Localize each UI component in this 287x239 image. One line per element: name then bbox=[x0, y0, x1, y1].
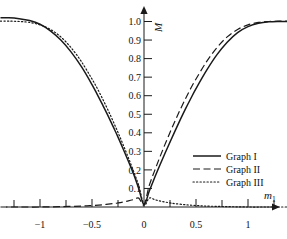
y-tick-label: 0.5 bbox=[129, 109, 142, 120]
x-axis-tick-labels: −1−0.500.51 bbox=[35, 219, 251, 230]
x-tick-label: 1 bbox=[246, 219, 251, 230]
chart-legend: Graph IGraph IIGraph III bbox=[193, 151, 263, 188]
x-tick-label: −0.5 bbox=[83, 219, 101, 230]
y-tick-label: 0.9 bbox=[129, 35, 142, 46]
legend-item-label: Graph II bbox=[226, 164, 260, 175]
y-axis-label: M bbox=[152, 22, 164, 33]
y-tick-label: 0.8 bbox=[129, 53, 142, 64]
y-axis-arrowhead bbox=[140, 6, 147, 14]
y-tick-label: 0.6 bbox=[129, 90, 142, 101]
legend-item-label: Graph III bbox=[226, 177, 263, 188]
x-tick-label: 0.5 bbox=[190, 219, 203, 230]
x-tick-label: 0 bbox=[142, 219, 147, 230]
x-axis-label: m1 bbox=[264, 189, 276, 204]
y-tick-label: 0.4 bbox=[129, 127, 142, 138]
legend-item-label: Graph I bbox=[226, 151, 257, 162]
y-tick-label: 1.0 bbox=[129, 16, 142, 27]
x-tick-label: −1 bbox=[35, 219, 46, 230]
chart-figure: 0.10.20.30.40.50.60.70.80.91.0 −1−0.500.… bbox=[0, 0, 287, 239]
y-axis-ticks bbox=[144, 22, 152, 189]
y-axis bbox=[140, 6, 147, 207]
y-tick-label: 0.3 bbox=[129, 146, 142, 157]
y-tick-label: 0.7 bbox=[129, 72, 142, 83]
line-chart: 0.10.20.30.40.50.60.70.80.91.0 −1−0.500.… bbox=[0, 0, 287, 239]
